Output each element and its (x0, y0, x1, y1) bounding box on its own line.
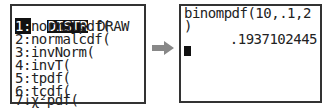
right-arrow-icon (152, 41, 174, 55)
input-expression-line1: binompdf(10,.1,2 (184, 7, 311, 20)
calculator-screen-distr-menu: DISTR DRAW 1:normalpdf( 2:normalcdf( 3:i… (10, 4, 146, 104)
calculator-screen-home: binompdf(10,.1,2 ) .1937102445 (179, 4, 322, 103)
menu-item-chi2pdf[interactable]: 7↓χ²pdf( (15, 94, 78, 107)
scroll-down-arrow-icon: ↓ (23, 92, 31, 108)
block-cursor (184, 46, 191, 56)
result-value: .1937102445 (230, 33, 317, 46)
input-expression-line2: ) (184, 20, 192, 33)
